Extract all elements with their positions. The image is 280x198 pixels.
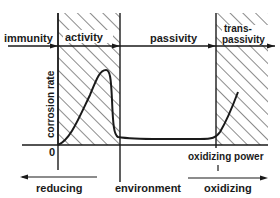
transpassivity-label-line1: trans- — [224, 23, 252, 34]
oxidizing-label: oxidizing — [204, 182, 252, 194]
transpassivity-label-line2: passivity — [222, 34, 265, 45]
x-axis-label: oxidizing power — [188, 151, 264, 162]
reducing-label: reducing — [36, 182, 82, 194]
oxidizing-arrow — [188, 176, 268, 181]
activity-label: activity — [65, 31, 104, 43]
immunity-label: immunity — [4, 32, 54, 44]
environment-label: environment — [115, 182, 181, 194]
y-axis-label: corrosion rate — [45, 70, 56, 138]
passivity-label: passivity — [150, 32, 198, 44]
origin-label: 0 — [49, 146, 55, 158]
reducing-arrow — [20, 175, 97, 180]
corrosion-diagram: immunity activity passivity trans- passi… — [0, 0, 280, 198]
